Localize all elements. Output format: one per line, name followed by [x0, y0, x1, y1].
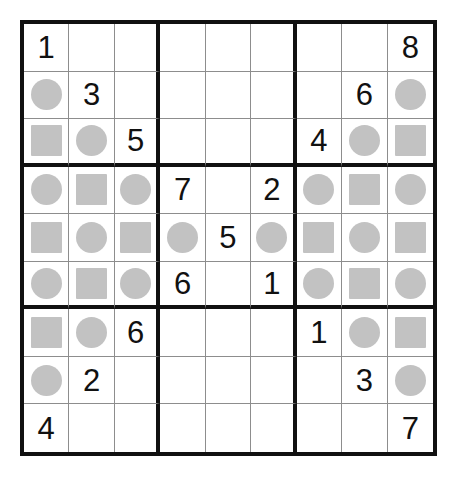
sudoku-grid[interactable]: 18365472561612347 — [20, 20, 437, 456]
cell-r1c3[interactable] — [115, 24, 160, 72]
cell-r1c8[interactable] — [342, 24, 387, 72]
given-digit: 6 — [127, 317, 144, 348]
cell-r1c1[interactable]: 1 — [24, 24, 69, 72]
cell-r9c4[interactable] — [160, 404, 205, 452]
cell-r5c7[interactable] — [297, 214, 342, 262]
cell-r7c8[interactable] — [342, 309, 387, 357]
cell-r5c2[interactable] — [69, 214, 114, 262]
given-digit: 5 — [219, 222, 236, 253]
cell-r3c7[interactable]: 4 — [297, 119, 342, 167]
square-shape-icon — [31, 222, 62, 253]
cell-r4c4[interactable]: 7 — [160, 167, 205, 215]
circle-shape-icon — [349, 222, 380, 253]
cell-r4c7[interactable] — [297, 167, 342, 215]
cell-r5c5[interactable]: 5 — [206, 214, 251, 262]
cell-r1c9[interactable]: 8 — [388, 24, 433, 72]
given-digit: 6 — [174, 268, 191, 299]
cell-r3c2[interactable] — [69, 119, 114, 167]
cell-r6c8[interactable] — [342, 262, 387, 310]
cell-r5c1[interactable] — [24, 214, 69, 262]
cell-r1c5[interactable] — [206, 24, 251, 72]
cell-r4c8[interactable] — [342, 167, 387, 215]
circle-shape-icon — [120, 268, 151, 299]
cell-r8c5[interactable] — [206, 357, 251, 405]
cell-r7c2[interactable] — [69, 309, 114, 357]
cell-r7c1[interactable] — [24, 309, 69, 357]
cell-r2c8[interactable]: 6 — [342, 72, 387, 120]
cell-r7c9[interactable] — [388, 309, 433, 357]
cell-r4c9[interactable] — [388, 167, 433, 215]
cell-r3c1[interactable] — [24, 119, 69, 167]
cell-r2c4[interactable] — [160, 72, 205, 120]
cell-r8c6[interactable] — [251, 357, 296, 405]
cell-r2c2[interactable]: 3 — [69, 72, 114, 120]
circle-shape-icon — [76, 222, 107, 253]
sudoku-puzzle-root: 18365472561612347 — [0, 0, 457, 477]
cell-r3c3[interactable]: 5 — [115, 119, 160, 167]
cell-r3c9[interactable] — [388, 119, 433, 167]
cell-r6c2[interactable] — [69, 262, 114, 310]
cell-r2c6[interactable] — [251, 72, 296, 120]
cell-r5c9[interactable] — [388, 214, 433, 262]
cell-r3c8[interactable] — [342, 119, 387, 167]
cell-r4c5[interactable] — [206, 167, 251, 215]
cell-r7c6[interactable] — [251, 309, 296, 357]
cell-r6c3[interactable] — [115, 262, 160, 310]
square-shape-icon — [31, 317, 62, 348]
cell-r6c6[interactable]: 1 — [251, 262, 296, 310]
cell-r2c5[interactable] — [206, 72, 251, 120]
given-digit: 8 — [402, 32, 419, 63]
cell-r2c7[interactable] — [297, 72, 342, 120]
cell-r9c9[interactable]: 7 — [388, 404, 433, 452]
cell-r9c3[interactable] — [115, 404, 160, 452]
cell-r8c9[interactable] — [388, 357, 433, 405]
given-digit: 2 — [263, 174, 280, 205]
cell-r4c2[interactable] — [69, 167, 114, 215]
cell-r3c6[interactable] — [251, 119, 296, 167]
cell-r8c8[interactable]: 3 — [342, 357, 387, 405]
cell-r9c1[interactable]: 4 — [24, 404, 69, 452]
cell-r9c7[interactable] — [297, 404, 342, 452]
cell-r6c1[interactable] — [24, 262, 69, 310]
cell-r6c4[interactable]: 6 — [160, 262, 205, 310]
cell-r2c3[interactable] — [115, 72, 160, 120]
cell-r6c9[interactable] — [388, 262, 433, 310]
given-digit: 1 — [310, 317, 327, 348]
cell-r8c7[interactable] — [297, 357, 342, 405]
cell-r4c1[interactable] — [24, 167, 69, 215]
cell-r2c1[interactable] — [24, 72, 69, 120]
circle-shape-icon — [256, 222, 287, 253]
cell-r8c2[interactable]: 2 — [69, 357, 114, 405]
cell-r5c6[interactable] — [251, 214, 296, 262]
square-shape-icon — [76, 174, 107, 205]
cell-r7c4[interactable] — [160, 309, 205, 357]
cell-r7c7[interactable]: 1 — [297, 309, 342, 357]
circle-shape-icon — [31, 268, 62, 299]
cell-r9c6[interactable] — [251, 404, 296, 452]
cell-r5c3[interactable] — [115, 214, 160, 262]
cell-r1c6[interactable] — [251, 24, 296, 72]
cell-r9c5[interactable] — [206, 404, 251, 452]
cell-r7c5[interactable] — [206, 309, 251, 357]
cell-r6c7[interactable] — [297, 262, 342, 310]
cell-r8c3[interactable] — [115, 357, 160, 405]
cell-r5c8[interactable] — [342, 214, 387, 262]
cell-r4c6[interactable]: 2 — [251, 167, 296, 215]
square-shape-icon — [395, 317, 426, 348]
given-digit: 4 — [38, 413, 55, 444]
cell-r2c9[interactable] — [388, 72, 433, 120]
cell-r8c1[interactable] — [24, 357, 69, 405]
cell-r4c3[interactable] — [115, 167, 160, 215]
cell-r1c2[interactable] — [69, 24, 114, 72]
cell-r9c8[interactable] — [342, 404, 387, 452]
cell-r3c5[interactable] — [206, 119, 251, 167]
cell-r1c7[interactable] — [297, 24, 342, 72]
cell-r1c4[interactable] — [160, 24, 205, 72]
cell-r7c3[interactable]: 6 — [115, 309, 160, 357]
cell-r9c2[interactable] — [69, 404, 114, 452]
cell-r3c4[interactable] — [160, 119, 205, 167]
cell-r8c4[interactable] — [160, 357, 205, 405]
circle-shape-icon — [395, 268, 426, 299]
cell-r5c4[interactable] — [160, 214, 205, 262]
cell-r6c5[interactable] — [206, 262, 251, 310]
